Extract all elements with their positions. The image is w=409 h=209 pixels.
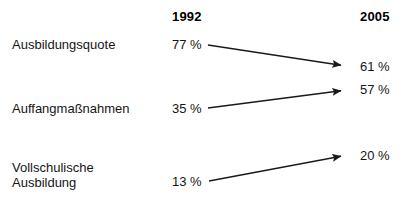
- arrow-ausbildungsquote: [208, 45, 341, 65]
- slopegraph-figure: 1992 2005 Ausbildungsquote 77 % 61 % Auf…: [0, 0, 409, 209]
- arrow-auffangmassnahmen: [208, 91, 341, 108]
- arrow-vollschulische-ausbildung: [209, 156, 341, 181]
- arrow-layer: [0, 0, 409, 209]
